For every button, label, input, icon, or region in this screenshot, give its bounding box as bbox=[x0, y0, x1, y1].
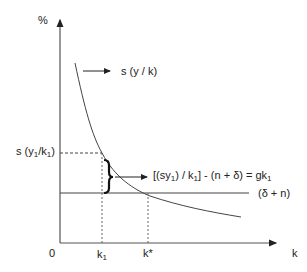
curve-label: s (y / k) bbox=[121, 66, 157, 77]
solow-growth-diagram bbox=[0, 0, 307, 272]
x-axis-label: k bbox=[292, 248, 298, 259]
gap-equation-label: [(sy1) / k1] - (n + δ) = gk1 bbox=[153, 170, 272, 183]
depreciation-line-label: (δ + n) bbox=[258, 188, 290, 199]
origin-label: 0 bbox=[49, 248, 55, 259]
x-tick-k1: k1 bbox=[97, 249, 107, 262]
savings-curve bbox=[75, 63, 241, 217]
gap-brace-icon bbox=[104, 160, 113, 193]
x-tick-kstar: k* bbox=[143, 248, 153, 259]
y-tick-label: s (y1/k1) bbox=[16, 146, 55, 159]
y-axis-label: % bbox=[38, 15, 48, 26]
